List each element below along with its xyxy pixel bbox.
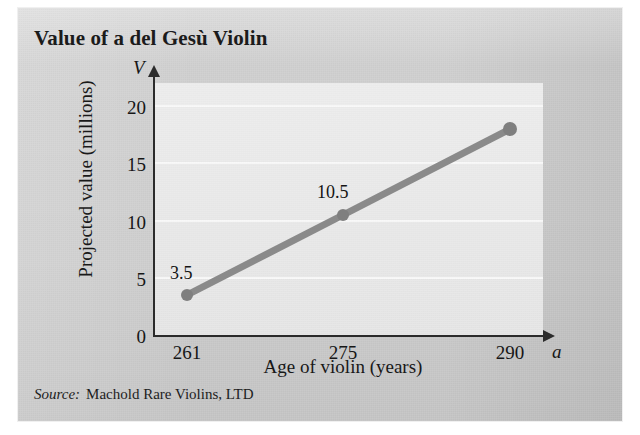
data-point-290	[503, 122, 517, 136]
series-line	[187, 129, 510, 295]
series-line-chart	[128, 63, 558, 353]
data-point-261	[181, 289, 193, 301]
figure-card: Value of a del Gesù Violin Projected val…	[18, 8, 622, 421]
source-text: Machold Rare Violins, LTD	[86, 386, 253, 402]
data-label-10-5: 10.5	[317, 183, 349, 201]
data-label-3-5: 3.5	[170, 264, 193, 282]
source-note: Source:Machold Rare Violins, LTD	[34, 386, 254, 403]
page-title: Value of a del Gesù Violin	[34, 26, 267, 51]
source-label: Source:	[34, 386, 80, 402]
y-axis-title: Projected value (millions)	[75, 54, 97, 304]
figure-page: Value of a del Gesù Violin Projected val…	[0, 0, 640, 435]
x-axis-title: Age of violin (years)	[128, 356, 558, 378]
data-point-275	[337, 209, 349, 221]
plot-region: V a 0 5 10 15 20 261 275 290 3.5 10.5	[128, 63, 558, 353]
